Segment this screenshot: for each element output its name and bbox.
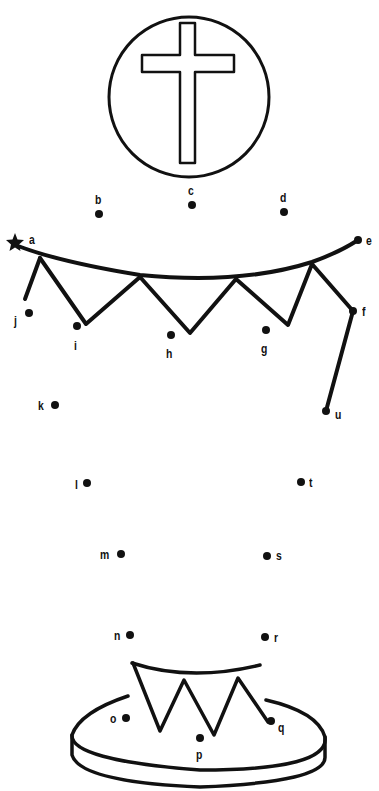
label-e: e	[366, 234, 372, 247]
label-r: r	[274, 631, 278, 644]
dot-n[interactable]	[126, 631, 134, 639]
dots-layer	[25, 201, 362, 742]
label-s: s	[276, 549, 282, 562]
label-p: p	[196, 748, 202, 761]
label-j: j	[14, 314, 17, 327]
dot-e[interactable]	[354, 236, 362, 244]
dot-s[interactable]	[263, 552, 271, 560]
dot-q[interactable]	[267, 717, 275, 725]
label-q: q	[278, 721, 284, 734]
dot-f[interactable]	[349, 307, 357, 315]
label-i: i	[74, 339, 77, 352]
cross-emblem-icon	[109, 17, 269, 177]
dot-r[interactable]	[261, 633, 269, 641]
label-h: h	[166, 347, 172, 360]
dot-h[interactable]	[167, 331, 175, 339]
dot-d[interactable]	[280, 208, 288, 216]
label-u: u	[335, 408, 341, 421]
top-bunting-drawing	[18, 240, 358, 411]
label-a: a	[29, 233, 35, 246]
label-n: n	[114, 629, 120, 642]
dot-l[interactable]	[83, 479, 91, 487]
dot-g[interactable]	[262, 326, 270, 334]
label-o: o	[110, 712, 116, 725]
dot-k[interactable]	[51, 401, 59, 409]
dot-b[interactable]	[95, 210, 103, 218]
label-b: b	[95, 193, 101, 206]
label-g: g	[261, 342, 267, 355]
dot-o[interactable]	[122, 714, 130, 722]
label-m: m	[100, 548, 109, 561]
label-f: f	[362, 305, 365, 318]
label-c: c	[188, 184, 194, 197]
dot-u[interactable]	[322, 407, 330, 415]
dot-c[interactable]	[188, 201, 196, 209]
label-l: l	[75, 478, 78, 491]
label-t: t	[309, 476, 312, 489]
dot-t[interactable]	[297, 478, 305, 486]
dot-j[interactable]	[25, 309, 33, 317]
puzzle-canvas	[0, 0, 379, 791]
dot-m[interactable]	[117, 550, 125, 558]
label-d: d	[280, 191, 286, 204]
label-k: k	[38, 399, 44, 412]
dot-i[interactable]	[73, 322, 81, 330]
dot-p[interactable]	[196, 734, 204, 742]
